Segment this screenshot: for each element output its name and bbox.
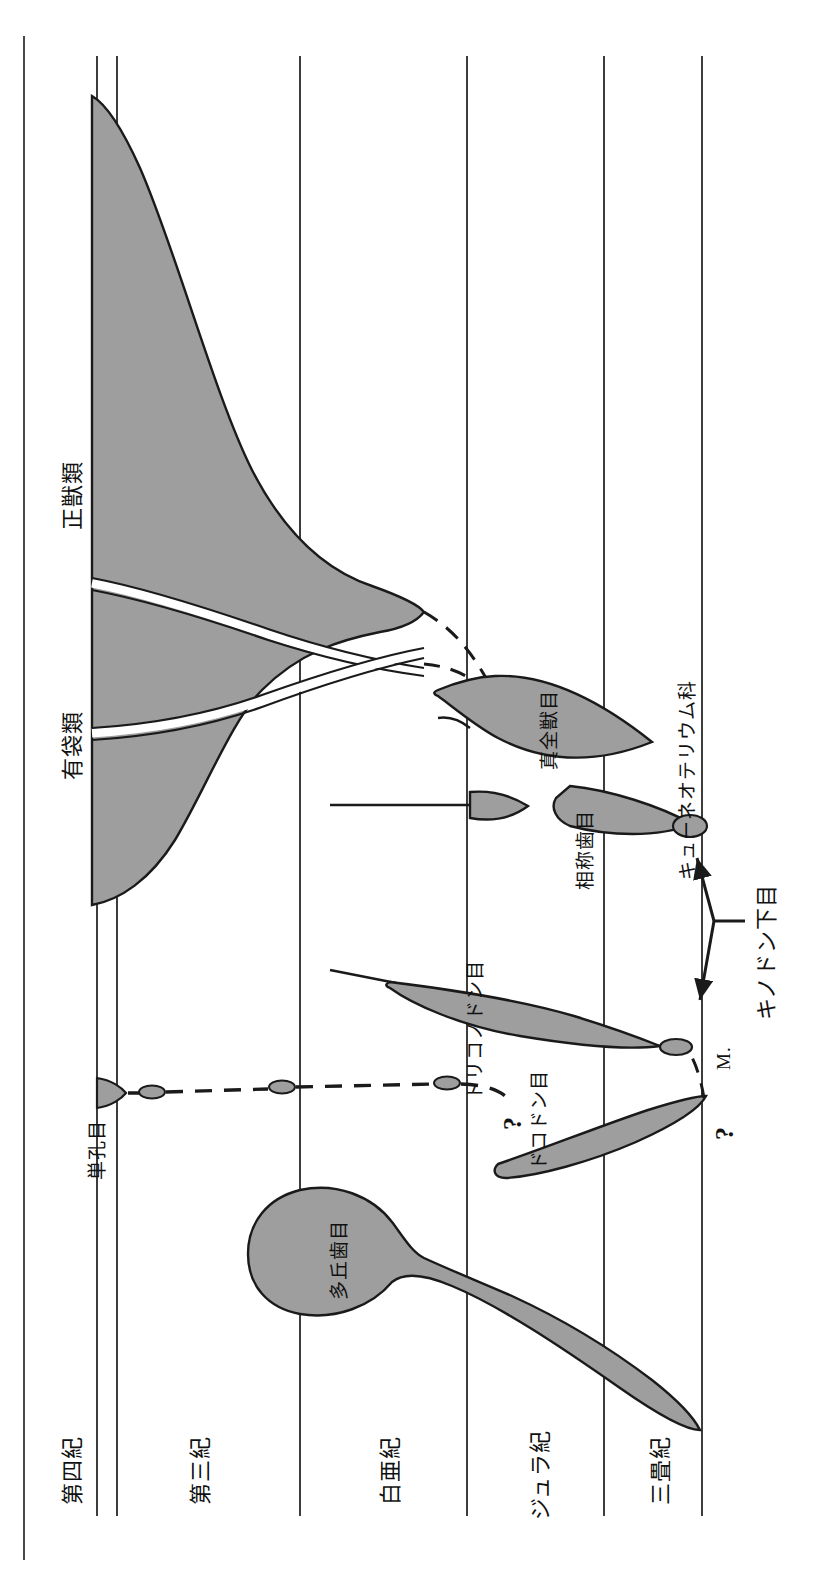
spindle-eupantotheria-tail	[438, 717, 470, 728]
node-monotremata-cretaceous	[139, 1086, 165, 1099]
label-symmetrodonta: 相称歯目	[576, 810, 595, 890]
spindle-eutheria-marsupialia-mass	[92, 96, 424, 905]
spindle-triconodonta-body	[386, 982, 660, 1048]
spindle-symmetrodonta	[330, 786, 692, 834]
lineage-triconodonta-stem	[330, 970, 396, 983]
annotation-query-docodonta: ?	[712, 1126, 738, 1140]
fork-arrow-upper	[697, 858, 714, 921]
label-cynodontia: キノドン下目	[756, 884, 778, 1020]
phylogeny-spindle-figure: 正獣類 有袋類 単孔目 真全獣目 相称歯目 トリコノドン目 ドコドン目 多丘歯目…	[0, 0, 838, 1586]
spindle-multituberculata	[248, 1188, 700, 1430]
spindle-docodonta-body	[495, 1096, 706, 1178]
spindle-monotremata-body	[97, 1078, 126, 1108]
cynodontia-fork	[697, 858, 745, 1000]
spindle-multituberculata-body	[248, 1188, 700, 1430]
spindle-docodonta	[495, 1050, 706, 1178]
label-multituberculata: 多丘歯目	[330, 1220, 349, 1300]
figure-canvas	[0, 0, 838, 1586]
dashed-link-eutheria-eupantotheria	[424, 612, 486, 678]
node-monotremata-jurassic-a	[269, 1081, 295, 1094]
label-eupantotheria: 真全獣目	[540, 690, 559, 770]
spindle-triconodonta	[330, 970, 692, 1055]
spindle-eutheria-marsupialia-group	[92, 96, 424, 905]
period-label-cretaceous: 白亜紀	[380, 1436, 402, 1505]
period-label-jurassic: ジュラ紀	[530, 1430, 552, 1520]
label-marsupialia: 有袋類	[62, 711, 84, 780]
label-kuehneotheriidae: キューネオテリウム科	[678, 680, 697, 880]
node-monotremata-jurassic-b	[434, 1077, 460, 1090]
label-triconodonta: トリコノドン目	[466, 960, 485, 1100]
annotation-morganucodon: M.	[714, 1046, 733, 1070]
spindle-symmetrodonta-upper	[470, 792, 528, 820]
period-label-triassic: 三畳紀	[650, 1436, 672, 1505]
label-monotremata: 単孔目	[88, 1120, 107, 1180]
annotation-query-monotremata: ?	[500, 1116, 526, 1130]
node-triconodonta-origin	[660, 1039, 692, 1055]
label-eutheria: 正獣類	[62, 461, 84, 530]
label-docodonta: ドコドン目	[530, 1070, 549, 1170]
spindle-monotremata	[97, 1077, 512, 1109]
period-label-tertiary: 第三紀	[190, 1436, 212, 1505]
period-label-quaternary: 第四紀	[62, 1436, 84, 1505]
